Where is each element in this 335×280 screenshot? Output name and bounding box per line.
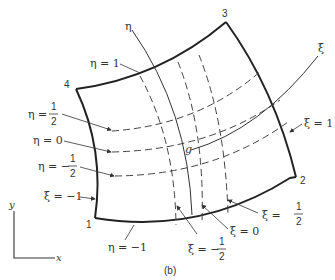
xi-minus-half-line (140, 76, 176, 225)
svg-text:ξ = 1: ξ = 1 (304, 117, 333, 130)
label-eta-minus-half: η = − 1 2 (38, 153, 114, 179)
global-xy-axes: y x (8, 199, 62, 263)
svg-text:η = 0: η = 0 (33, 134, 63, 147)
svg-text:η = 1: η = 1 (90, 57, 120, 70)
y-axis-label: y (8, 199, 15, 210)
eta-axis (132, 30, 192, 215)
svg-text:ξ = −: ξ = − (188, 243, 220, 256)
label-eta-0: η = 0 (33, 134, 111, 152)
svg-text:1: 1 (296, 201, 302, 212)
label-xi-minus-1: ξ = −1 (44, 190, 95, 203)
label-eta-half: η = 1 2 (28, 101, 111, 130)
eta-half-line (112, 70, 262, 131)
svg-text:2: 2 (70, 168, 76, 179)
svg-text:ξ = 0: ξ = 0 (230, 225, 259, 238)
edge-4-3-eta-plus1 (76, 22, 226, 89)
label-eta-1: η = 1 (90, 57, 140, 73)
svg-text:1: 1 (219, 236, 225, 247)
svg-text:η = −: η = − (38, 160, 70, 173)
svg-text:2: 2 (296, 216, 302, 227)
element-boundary (76, 22, 296, 222)
xi-axis-label: ξ (318, 42, 324, 55)
figure-caption: (b) (164, 265, 176, 276)
xi-grid-lines (140, 55, 228, 225)
label-eta-minus-1: η = −1 (108, 225, 147, 254)
x-axis-label: x (56, 252, 62, 263)
corner-3: 3 (222, 8, 228, 19)
svg-text:η =: η = (28, 108, 47, 121)
eta-axis-label: η (125, 20, 132, 33)
corner-4: 4 (64, 79, 70, 90)
corner-1: 1 (86, 219, 92, 230)
svg-text:1: 1 (70, 153, 76, 164)
label-xi-1: ξ = 1 (290, 117, 333, 132)
svg-text:ξ =: ξ = (262, 209, 281, 222)
svg-text:1: 1 (51, 101, 57, 112)
svg-text:2: 2 (219, 251, 225, 262)
svg-text:η = −1: η = −1 (108, 241, 147, 254)
edge-3-2-xi-plus1 (226, 22, 296, 177)
svg-text:ξ = −1: ξ = −1 (44, 190, 83, 203)
eta-minus-half-line (115, 122, 288, 176)
isoparametric-element-diagram: η ξ 1 2 3 4 g η = 1 η = 1 2 η = 0 η = − … (0, 0, 335, 280)
center-point-g: g (185, 143, 192, 156)
corner-2: 2 (300, 175, 306, 186)
svg-text:2: 2 (51, 116, 57, 127)
